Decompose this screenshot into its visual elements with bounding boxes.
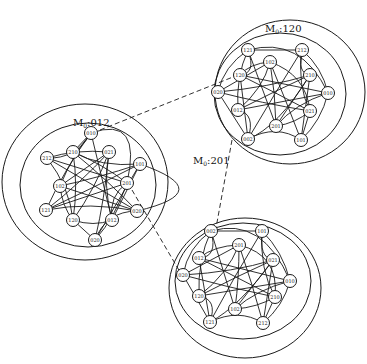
node-label: 120 [235,72,245,78]
node-label: 102 [265,59,275,65]
node-101: 101 [134,158,147,171]
node-102: 102 [54,180,67,193]
node-label: 212 [42,155,52,161]
node-label: 020 [90,237,100,243]
left-cluster-title: M0:012 [73,117,110,129]
dashed-link-left-010-top-right-120 [100,75,238,130]
node-201: 201 [233,239,246,252]
node-002: 002 [242,133,255,146]
node-012: 012 [193,252,206,265]
node-label: 121 [205,319,215,325]
node-101: 101 [295,134,308,147]
bottom-cluster-title: M0:201 [193,155,230,167]
node-212: 212 [41,152,54,165]
nodes-layer: 0102100212121011022011211200120200201212… [40,44,335,330]
node-label: 121 [41,207,51,213]
node-label: 120 [194,293,204,299]
node-label: 212 [258,320,268,326]
node-021: 021 [304,105,317,118]
bottom-outer-arc [239,245,275,297]
node-label: 010 [86,130,96,136]
node-021: 021 [267,254,280,267]
node-label: 210 [270,294,280,300]
node-label: 102 [55,183,65,189]
node-212: 212 [257,317,270,330]
node-label: 020 [213,89,223,95]
bottom-edge [183,245,239,275]
left-outer-arc [137,164,179,211]
node-label: 201 [122,180,132,186]
node-label: 201 [234,242,244,248]
node-210: 210 [304,69,317,82]
node-020: 020 [89,234,102,247]
top-right-cluster-title: M0:120 [265,23,302,35]
node-121: 121 [40,204,53,217]
dashed-link-left-201-bottom-020 [132,190,180,272]
node-012: 012 [106,214,119,227]
dashed-link-top-right-002-bottom-002 [216,140,232,228]
node-label: 012 [233,107,243,113]
node-212: 212 [296,44,309,57]
node-label: 021 [104,149,114,155]
node-label: 101 [257,228,267,234]
node-101: 101 [256,225,269,238]
node-120: 120 [67,214,80,227]
top-right-edge [218,92,248,139]
node-label: 212 [297,47,307,53]
node-201: 201 [270,120,283,133]
node-002: 002 [205,225,218,238]
node-label: 121 [243,47,253,53]
node-label: 210 [68,149,78,155]
node-label: 210 [305,72,315,78]
node-label: 012 [107,217,117,223]
node-120: 120 [234,69,247,82]
node-020: 020 [177,269,190,282]
node-021: 021 [103,146,116,159]
node-label: 102 [230,306,240,312]
node-label: 002 [206,228,216,234]
node-label: 002 [243,136,253,142]
bottom-edge [239,245,263,323]
graph-diagram: 0102100212121011022011211200120200201212… [0,0,367,364]
node-102: 102 [229,303,242,316]
node-label: 021 [268,257,278,263]
node-label: 021 [305,108,315,114]
node-label: 010 [285,278,295,284]
node-label: 012 [194,255,204,261]
node-120: 120 [193,290,206,303]
node-121: 121 [204,316,217,329]
node-label: 101 [296,137,306,143]
node-label: 020 [178,272,188,278]
node-020: 020 [212,86,225,99]
node-label: 201 [271,123,281,129]
node-label: 020 [132,208,142,214]
node-121: 121 [242,44,255,57]
bottom-edge [210,315,263,323]
node-010: 010 [322,87,335,100]
node-201: 201 [121,177,134,190]
node-210: 210 [67,146,80,159]
node-label: 010 [323,90,333,96]
node-020: 020 [131,205,144,218]
left-inner-ring [20,123,156,247]
bottom-edge [199,245,239,296]
node-210: 210 [269,291,282,304]
node-label: 120 [68,217,78,223]
node-010: 010 [284,275,297,288]
node-label: 101 [135,161,145,167]
node-012: 012 [232,104,245,117]
node-102: 102 [264,56,277,69]
